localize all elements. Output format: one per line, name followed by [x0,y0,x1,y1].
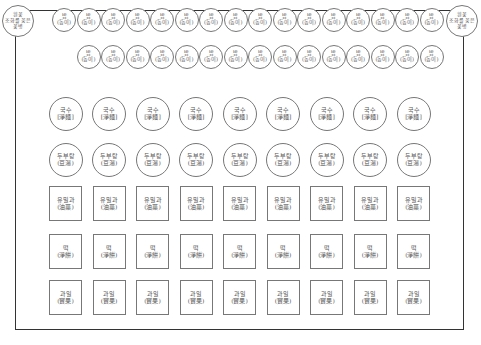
dish-hanja: (油菓) [362,204,379,211]
dish-hanja: (동이) [351,20,365,26]
fruit-dish: 과일(實果) [267,280,300,315]
noodles-dish: 국수[淨麵] [179,97,213,131]
noodles-dish: 국수[淨麵] [397,97,431,131]
rice-bowl: 밥(동이) [199,45,223,69]
dish-hanja: (豆湯) [101,160,118,167]
tofu-soup-dish: 두부탕(豆湯) [310,143,344,177]
dish-hanja: (동이) [204,57,218,63]
fruit-dish: 과일(實果) [136,280,169,315]
rice-bowl: 밥(동이) [175,8,199,32]
dish-hanja: (實果) [405,298,422,305]
dish-hanja: [淨麵] [101,114,118,121]
dish-hanja: (동이) [228,20,242,26]
rice-bowl: 밥(동이) [395,45,419,69]
dish-hanja: (油菓) [57,204,74,211]
fruit-dish: 과일(實果) [180,280,213,315]
rice-bowl: 밥(동이) [297,8,321,32]
dish-hanja: (동이) [277,20,291,26]
dish-hanja: (豆湯) [362,160,379,167]
rice-bowl: 밥(동이) [371,8,395,32]
dish-hanja: (實果) [57,298,74,305]
dish-hanja: (油菓) [275,204,292,211]
dish-hanja: (동이) [81,20,95,26]
rice-bowl: 밥(동이) [52,8,76,32]
rice-cake-dish: 떡(淨餠) [354,234,387,269]
yumilgwa-dish: 유밀과(油菓) [310,186,343,221]
dish-hanja: (淨餠) [405,252,422,259]
dish-hanja: (동이) [155,20,169,26]
dish-hanja: (油菓) [231,204,248,211]
yumilgwa-dish: 유밀과(油菓) [136,186,169,221]
fruit-dish: 과일(實果) [354,280,387,315]
noodles-dish: 국수[淨麵] [136,97,170,131]
yumilgwa-dish: 유밀과(油菓) [397,186,430,221]
rice-bowl: 밥(동이) [101,45,125,69]
rice-bowl: 밥(동이) [150,45,174,69]
dish-hanja: (油菓) [405,204,422,211]
rice-bowl: 밥(동이) [346,8,370,32]
rice-bowl: 밥(동이) [322,45,346,69]
dish-hanja: [淨麵] [318,114,335,121]
dish-hanja: (淨餠) [57,252,74,259]
dish-hanja: (淨餠) [188,252,205,259]
dish-hanja: (豆湯) [57,160,74,167]
dish-hanja: (豆湯) [318,160,335,167]
rice-bowl: 밥(동이) [420,8,444,32]
yumilgwa-dish: 유밀과(油菓) [93,186,126,221]
rice-cake-dish: 떡(淨餠) [180,234,213,269]
dish-hanja: (동이) [326,57,340,63]
dish-hanja: (동이) [351,57,365,63]
dish-hanja: [淨麵] [57,114,74,121]
dish-hanja: (동이) [400,57,414,63]
dish-hanja: [淨麵] [188,114,205,121]
dish-hanja: (油菓) [144,204,161,211]
rice-cake-dish: 떡(淨餠) [223,234,256,269]
dish-hanja: (동이) [57,20,71,26]
dish-hanja: (豆湯) [188,160,205,167]
rice-bowl: 밥(동이) [150,8,174,32]
dish-hanja: (油菓) [188,204,205,211]
tofu-soup-dish: 두부탕(豆湯) [266,143,300,177]
dish-hanja: (동이) [302,57,316,63]
dish-hanja: (實果) [144,298,161,305]
dish-hanja: (實果) [362,298,379,305]
dish-hanja: [淨麵] [231,114,248,121]
noodles-dish: 국수[淨麵] [223,97,257,131]
yumilgwa-dish: 유밀과(油菓) [354,186,387,221]
rice-bowl: 밥(동이) [395,8,419,32]
rice-bowl: 밥(동이) [224,8,248,32]
rice-bowl: 밥(동이) [322,8,346,32]
dish-hanja: (實果) [188,298,205,305]
noodles-dish: 국수[淨麵] [310,97,344,131]
dish-hanja: (동이) [302,20,316,26]
vase-left: 흰꽃 조화를 꽂은 꽃병 [2,5,34,37]
rice-bowl: 밥(동이) [346,45,370,69]
fruit-dish: 과일(實果) [310,280,343,315]
dish-hanja: (油菓) [318,204,335,211]
rice-bowl: 밥(동이) [248,8,272,32]
dish-hanja: (淨餠) [144,252,161,259]
dish-hanja: (豆湯) [405,160,422,167]
vase-right: 흰꽃 조화를 꽂은 꽃병 [446,5,478,37]
dish-hanja: (實果) [275,298,292,305]
tofu-soup-dish: 두부탕(豆湯) [353,143,387,177]
dish-hanja: (동이) [424,20,438,26]
vase-label: 꽃병 [457,24,467,30]
rice-bowl: 밥(동이) [175,45,199,69]
rice-bowl: 밥(동이) [101,8,125,32]
dish-hanja: [淨麵] [144,114,161,121]
rice-cake-dish: 떡(淨餠) [136,234,169,269]
tofu-soup-dish: 두부탕(豆湯) [397,143,431,177]
yumilgwa-dish: 유밀과(油菓) [49,186,82,221]
dish-hanja: (實果) [101,298,118,305]
fruit-dish: 과일(實果) [49,280,82,315]
dish-hanja: (동이) [130,20,144,26]
dish-hanja: (淨餠) [362,252,379,259]
rice-bowl: 밥(동이) [297,45,321,69]
fruit-dish: 과일(實果) [93,280,126,315]
rice-bowl: 밥(동이) [224,45,248,69]
rice-bowl: 밥(동이) [77,8,101,32]
noodles-dish: 국수[淨麵] [353,97,387,131]
rice-bowl: 밥(동이) [273,8,297,32]
yumilgwa-dish: 유밀과(油菓) [180,186,213,221]
